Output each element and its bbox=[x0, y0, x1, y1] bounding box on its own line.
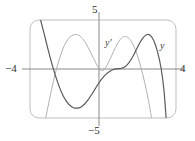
curve-label-y: y bbox=[160, 41, 164, 51]
curve-label-y-prime: y′ bbox=[105, 38, 112, 48]
graph-figure: 5 −5 −4 4 y′ y bbox=[0, 0, 195, 141]
y-min-label: −5 bbox=[88, 125, 100, 136]
plot-canvas bbox=[0, 0, 195, 141]
y-max-label: 5 bbox=[92, 4, 98, 15]
x-max-label: 4 bbox=[180, 63, 186, 74]
x-min-label: −4 bbox=[5, 63, 17, 74]
